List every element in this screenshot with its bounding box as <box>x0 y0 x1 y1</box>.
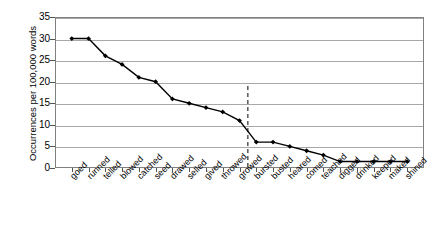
x-tick-mark <box>72 168 73 172</box>
x-tick-mark <box>390 168 391 172</box>
x-tick-mark <box>240 168 241 172</box>
x-tick-mark <box>357 168 358 172</box>
y-tick-label: 30 <box>28 34 50 44</box>
y-tick-mark <box>50 168 55 169</box>
x-tick-mark <box>374 168 375 172</box>
x-tick-mark <box>89 168 90 172</box>
y-tick-label: 15 <box>28 98 50 108</box>
y-tick-label: 0 <box>28 163 50 173</box>
x-tick-mark <box>323 168 324 172</box>
gridline <box>56 104 423 105</box>
x-tick-mark <box>122 168 123 172</box>
x-tick-mark <box>290 168 291 172</box>
x-tick-mark <box>172 168 173 172</box>
x-tick-mark <box>139 168 140 172</box>
gridline <box>56 40 423 41</box>
x-tick-mark <box>189 168 190 172</box>
x-tick-mark <box>156 168 157 172</box>
x-tick-mark <box>273 168 274 172</box>
gridline <box>56 83 423 84</box>
x-tick-mark <box>105 168 106 172</box>
y-tick-mark <box>50 103 55 104</box>
y-tick-label: 5 <box>28 141 50 151</box>
chart-figure: Occurrences per 100,000 words 3530252015… <box>0 0 439 228</box>
y-tick-mark <box>50 60 55 61</box>
x-tick-mark <box>256 168 257 172</box>
x-tick-mark <box>307 168 308 172</box>
x-tick-mark <box>223 168 224 172</box>
plot-area <box>55 17 424 168</box>
x-tick-mark <box>206 168 207 172</box>
gridline <box>56 126 423 127</box>
y-tick-mark <box>50 146 55 147</box>
gridline <box>56 61 423 62</box>
y-tick-mark <box>50 39 55 40</box>
y-tick-label: 20 <box>28 77 50 87</box>
y-tick-mark <box>50 125 55 126</box>
y-tick-mark <box>50 17 55 18</box>
x-tick-mark <box>340 168 341 172</box>
x-tick-mark <box>407 168 408 172</box>
gridline <box>56 147 423 148</box>
gridline <box>56 18 423 19</box>
y-axis-tick-labels: 35302520151050 <box>28 0 50 228</box>
y-tick-mark <box>50 82 55 83</box>
y-tick-label: 10 <box>28 120 50 130</box>
y-tick-label: 25 <box>28 55 50 65</box>
y-tick-label: 35 <box>28 12 50 22</box>
